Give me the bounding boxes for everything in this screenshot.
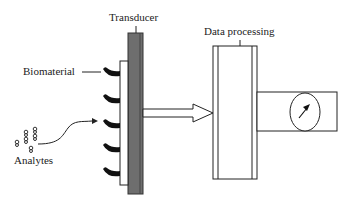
- analytes-molecules: [15, 127, 37, 152]
- signal-arrow: [143, 104, 213, 122]
- meter-dial-icon: [290, 93, 320, 131]
- label-transducer: Transducer: [109, 11, 158, 23]
- biomaterial-receptors: [103, 67, 120, 176]
- diagram-graphics: [0, 0, 349, 206]
- label-analytes: Analytes: [14, 154, 53, 166]
- binding-arrowhead-icon: [92, 118, 98, 124]
- biosensor-diagram: Transducer Data processing Biomaterial A…: [0, 0, 349, 206]
- label-data-processing: Data processing: [204, 25, 275, 37]
- biomaterial-layer: [120, 61, 128, 185]
- transducer: [128, 26, 143, 194]
- output-display: [257, 92, 337, 131]
- label-biomaterial: Biomaterial: [23, 65, 75, 77]
- binding-arrow: [38, 121, 92, 144]
- data-processing-box: [213, 40, 257, 179]
